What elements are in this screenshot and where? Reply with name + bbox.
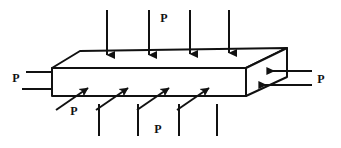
- label-left-pressure: P: [12, 71, 19, 85]
- pressure-block-figure: P P P P P: [0, 0, 341, 148]
- label-right-pressure: P: [317, 72, 324, 86]
- label-top-pressure: P: [160, 11, 167, 25]
- left-pressure-line-group: [22, 72, 52, 89]
- figure-canvas: P P P P P: [0, 0, 341, 148]
- label-front-upper-pressure: P: [70, 104, 77, 118]
- label-front-lower-pressure: P: [154, 122, 161, 136]
